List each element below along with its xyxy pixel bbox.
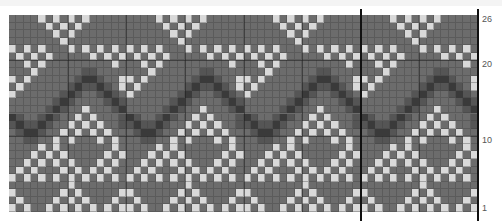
stitch-cell — [412, 144, 419, 152]
stitch-cell — [104, 45, 111, 53]
stitch-cell — [9, 15, 16, 23]
stitch-cell — [31, 53, 38, 61]
stitch-cell — [302, 60, 309, 68]
stitch-cell — [229, 83, 236, 91]
row-label: 1 — [482, 203, 487, 213]
stitch-cell — [405, 45, 412, 53]
stitch-cell — [134, 189, 141, 197]
stitch-cell — [38, 106, 45, 114]
stitch-cell — [222, 53, 229, 61]
stitch-cell — [60, 76, 67, 84]
stitch-cell — [126, 182, 133, 190]
stitch-cell — [419, 151, 426, 159]
repeat-marker-line — [477, 9, 479, 221]
stitch-cell — [383, 91, 390, 99]
stitch-cell — [265, 144, 272, 152]
stitch-cell — [434, 15, 441, 23]
stitch-cell — [200, 151, 207, 159]
stitch-cell — [287, 144, 294, 152]
stitch-cell — [31, 76, 38, 84]
stitch-cell — [163, 106, 170, 114]
stitch-cell — [119, 182, 126, 190]
stitch-cell — [75, 114, 82, 122]
stitch-cell — [419, 23, 426, 31]
stitch-cell — [331, 159, 338, 167]
stitch-cell — [331, 83, 338, 91]
stitch-cell — [82, 23, 89, 31]
stitch-cell — [309, 68, 316, 76]
stitch-cell — [16, 189, 23, 197]
stitch-cell — [185, 60, 192, 68]
stitch-cell — [419, 68, 426, 76]
stitch-cell — [31, 30, 38, 38]
stitch-cell — [456, 68, 463, 76]
stitch-cell — [449, 91, 456, 99]
stitch-cell — [229, 144, 236, 152]
stitch-cell — [126, 23, 133, 31]
stitch-cell — [251, 129, 258, 137]
stitch-cell — [126, 144, 133, 152]
stitch-cell — [287, 38, 294, 46]
stitch-cell — [287, 114, 294, 122]
stitch-cell — [280, 15, 287, 23]
stitch-cell — [90, 189, 97, 197]
stitch-cell — [200, 114, 207, 122]
stitch-cell — [16, 121, 23, 129]
stitch-cell — [324, 159, 331, 167]
stitch-cell — [178, 98, 185, 106]
stitch-cell — [214, 30, 221, 38]
row-label: 10 — [482, 135, 492, 145]
stitch-cell — [207, 83, 214, 91]
stitch-cell — [287, 68, 294, 76]
stitch-cell — [368, 106, 375, 114]
stitch-cell — [405, 30, 412, 38]
stitch-cell — [251, 159, 258, 167]
stitch-cell — [24, 167, 31, 175]
stitch-cell — [97, 151, 104, 159]
stitch-cell — [295, 60, 302, 68]
stitch-cell — [441, 76, 448, 84]
stitch-cell — [419, 197, 426, 205]
stitch-cell — [383, 38, 390, 46]
stitch-cell — [251, 45, 258, 53]
stitch-cell — [258, 129, 265, 137]
stitch-cell — [75, 189, 82, 197]
major-gridline — [68, 15, 69, 212]
stitch-cell — [412, 45, 419, 53]
stitch-cell — [46, 151, 53, 159]
stitch-cell — [170, 174, 177, 182]
stitch-cell — [207, 129, 214, 137]
stitch-cell — [68, 98, 75, 106]
stitch-cell — [287, 23, 294, 31]
stitch-cell — [24, 204, 31, 212]
stitch-cell — [309, 151, 316, 159]
stitch-cell — [9, 83, 16, 91]
stitch-cell — [163, 38, 170, 46]
stitch-cell — [148, 182, 155, 190]
stitch-cell — [170, 197, 177, 205]
stitch-cell — [280, 197, 287, 205]
stitch-cell — [295, 30, 302, 38]
stitch-cell — [68, 197, 75, 205]
stitch-cell — [112, 38, 119, 46]
stitch-cell — [112, 83, 119, 91]
stitch-cell — [412, 136, 419, 144]
stitch-cell — [229, 106, 236, 114]
stitch-cell — [126, 174, 133, 182]
stitch-cell — [427, 151, 434, 159]
stitch-cell — [141, 53, 148, 61]
stitch-cell — [214, 144, 221, 152]
stitch-cell — [331, 121, 338, 129]
stitch-cell — [236, 167, 243, 175]
stitch-cell — [273, 38, 280, 46]
stitch-cell — [60, 15, 67, 23]
stitch-cell — [126, 98, 133, 106]
stitch-cell — [265, 53, 272, 61]
stitch-cell — [222, 189, 229, 197]
stitch-cell — [148, 45, 155, 53]
stitch-cell — [309, 91, 316, 99]
stitch-cell — [427, 144, 434, 152]
stitch-cell — [192, 114, 199, 122]
stitch-cell — [192, 23, 199, 31]
stitch-cell — [192, 204, 199, 212]
